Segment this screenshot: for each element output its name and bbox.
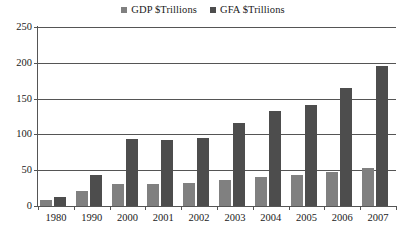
x-tick-label: 1980 <box>45 213 66 224</box>
chart-legend: GDP $Trillions GFA $Trillions <box>0 2 406 18</box>
x-tick-label: 1990 <box>81 213 102 224</box>
bar-group <box>360 27 396 206</box>
bar-gfa <box>54 197 66 206</box>
y-tick-label: 50 <box>22 165 33 176</box>
bar-gdp <box>76 191 88 206</box>
x-tick-mark <box>289 206 290 210</box>
bar-group <box>38 27 74 206</box>
x-tick-label: 2000 <box>117 213 138 224</box>
bar-gdp <box>362 168 374 206</box>
x-tick-mark <box>38 206 39 210</box>
x-tick-label: 2006 <box>332 213 353 224</box>
bar-gdp <box>219 180 231 206</box>
x-tick-mark <box>396 206 397 210</box>
x-tick-mark <box>217 206 218 210</box>
bar-gdp <box>183 183 195 206</box>
plot-area: 050100150200250 198019902000200120022003… <box>38 27 396 206</box>
x-tick-mark <box>110 206 111 210</box>
x-tick-label: 2003 <box>224 213 245 224</box>
bar-gfa <box>305 105 317 206</box>
bar-gdp <box>147 184 159 206</box>
legend-entry-gdp: GDP $Trillions <box>121 5 197 16</box>
x-tick-label: 2002 <box>189 213 210 224</box>
bar-group <box>145 27 181 206</box>
bar-gfa <box>126 139 138 206</box>
bar-group <box>289 27 325 206</box>
bar-group <box>74 27 110 206</box>
bar-group <box>110 27 146 206</box>
bar-gfa <box>233 123 245 206</box>
y-tick-label: 250 <box>16 22 32 33</box>
bar-group <box>181 27 217 206</box>
bar-chart: GDP $Trillions GFA $Trillions 0501001502… <box>0 0 406 241</box>
legend-label-gfa: GFA $Trillions <box>220 5 285 16</box>
x-tick-mark <box>145 206 146 210</box>
bar-group <box>253 27 289 206</box>
bar-gdp <box>40 200 52 206</box>
x-tick-mark <box>253 206 254 210</box>
bar-gfa <box>197 138 209 206</box>
x-tick-mark <box>324 206 325 210</box>
legend-entry-gfa: GFA $Trillions <box>210 5 285 16</box>
bar-gfa <box>90 175 102 206</box>
y-tick-label: 200 <box>16 58 32 69</box>
bar-gfa <box>376 66 388 206</box>
x-tick-label: 2004 <box>260 213 281 224</box>
legend-swatch-gfa <box>210 7 216 13</box>
x-tick-mark <box>181 206 182 210</box>
bar-gdp <box>112 184 124 206</box>
y-tick-label: 100 <box>16 129 32 140</box>
y-tick-label: 150 <box>16 93 32 104</box>
x-tick-label: 2001 <box>153 213 174 224</box>
bar-gfa <box>340 88 352 206</box>
bar-gdp <box>255 177 267 206</box>
bars-layer <box>38 27 396 206</box>
bar-gdp <box>291 175 303 207</box>
bar-group <box>324 27 360 206</box>
bar-gdp <box>326 172 338 206</box>
bar-group <box>217 27 253 206</box>
legend-swatch-gdp <box>121 7 127 13</box>
x-tick-mark <box>360 206 361 210</box>
bar-gfa <box>269 111 281 206</box>
x-tick-label: 2007 <box>368 213 389 224</box>
x-tick-label: 2005 <box>296 213 317 224</box>
legend-label-gdp: GDP $Trillions <box>131 5 197 16</box>
bar-gfa <box>161 140 173 206</box>
x-tick-mark <box>74 206 75 210</box>
y-tick-label: 0 <box>27 201 32 212</box>
